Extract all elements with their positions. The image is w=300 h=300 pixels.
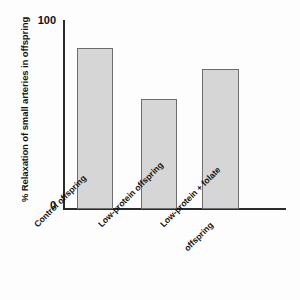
y-axis-title: % Relaxation of small arteries in offspr… [19, 10, 30, 210]
bar-chart-figure: % Relaxation of small arteries in offspr… [0, 0, 300, 300]
bar-low-protein-offspring [141, 99, 177, 209]
y-axis-tick-100: 100 [22, 14, 56, 26]
plot-area [65, 20, 286, 209]
x-axis-category-label-2-line2: offspring [182, 220, 215, 253]
bar-low-protein-folate-offspring [202, 69, 239, 209]
